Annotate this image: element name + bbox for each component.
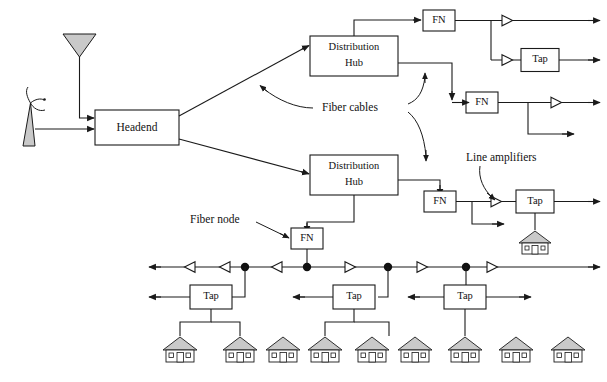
line-amplifier-icon — [185, 262, 196, 273]
distribution-hub-upper-node[interactable]: Distribution Hub — [310, 36, 398, 76]
line-amplifier-icon — [272, 262, 283, 273]
network-diagram: Headend Distribution Hub FN Tap FN — [0, 0, 607, 382]
drop-tap3-house2 — [211, 322, 240, 336]
headend-label: Headend — [117, 121, 158, 133]
line-amplifier-icon — [502, 15, 513, 26]
link-hub-lower-to-fn3 — [398, 180, 440, 190]
fiber-node-leader-arrow — [280, 234, 289, 239]
tap-node-1[interactable]: Tap — [521, 49, 559, 72]
fiber-trunk-upper-arrow — [302, 46, 309, 50]
drop-tap4-house2 — [354, 322, 389, 336]
tap2-label: Tap — [527, 195, 543, 206]
fiber-cables-leader-left — [264, 89, 313, 108]
fiber-cables-leader-up — [408, 77, 425, 104]
tap-node-3[interactable]: Tap — [190, 285, 232, 309]
coax-branch-d — [528, 103, 571, 135]
fiber-cables-leader-down — [408, 112, 426, 156]
line-amplifiers-leader — [480, 166, 492, 197]
distribution-hub-upper-label-line1: Distribution — [329, 41, 381, 52]
fiber-trunk-lower-arrow — [301, 172, 309, 174]
house-icon — [551, 337, 585, 362]
link-hub-upper-to-fn1 — [354, 20, 418, 36]
fn4-label: FN — [300, 232, 314, 243]
line-amplifier-icon — [345, 262, 356, 273]
fiber-trunk-lower — [179, 139, 306, 173]
line-amplifiers-annotation-label: Line amplifiers — [466, 151, 537, 164]
trunk-junction-dot — [303, 263, 311, 271]
house-icon — [448, 337, 482, 362]
distribution-hub-lower-label-line1: Distribution — [329, 160, 381, 171]
satellite-dish-icon — [63, 34, 96, 118]
house-icon — [308, 337, 342, 362]
tap4-label: Tap — [346, 290, 362, 301]
drop-trunk-to-tap4 — [378, 267, 388, 297]
fn2-label: FN — [475, 96, 489, 107]
drop-tap3-house1 — [180, 309, 211, 336]
distribution-hub-upper-label-line2: Hub — [345, 57, 363, 68]
tap-node-2[interactable]: Tap — [516, 190, 554, 213]
tap3-label: Tap — [203, 290, 219, 301]
house-icon — [266, 337, 300, 362]
drop-tap4-house1 — [325, 309, 354, 336]
tap5-label: Tap — [457, 290, 473, 301]
house-icon — [519, 231, 551, 254]
fiber-cables-annotation-label: Fiber cables — [322, 101, 378, 113]
fiber-node-fn1[interactable]: FN — [423, 10, 455, 31]
fiber-trunk-upper — [179, 47, 306, 116]
tap-node-4[interactable]: Tap — [333, 285, 375, 309]
house-icon — [163, 337, 197, 362]
line-amplifier-icon — [417, 262, 428, 273]
tap1-label: Tap — [532, 53, 548, 64]
distribution-hub-lower-label-line2: Hub — [345, 176, 363, 187]
headend-node[interactable]: Headend — [95, 110, 179, 145]
line-amplifier-icon — [551, 97, 562, 108]
distribution-hub-lower-node[interactable]: Distribution Hub — [310, 155, 398, 195]
link-hub-lower-to-fn4 — [307, 195, 354, 228]
drop-trunk-to-tap3 — [232, 267, 245, 297]
fiber-node-fn3[interactable]: FN — [424, 191, 456, 212]
fiber-node-fn4[interactable]: FN — [291, 228, 323, 249]
broadcast-tower-icon — [23, 87, 94, 146]
fiber-cables-leader-left-arrow — [260, 86, 268, 93]
house-icon — [499, 337, 533, 362]
tap-node-5[interactable]: Tap — [444, 285, 486, 309]
line-amplifier-icon — [487, 262, 498, 273]
house-icon — [355, 337, 389, 362]
house-icon — [223, 337, 257, 362]
fn3-label: FN — [433, 195, 447, 206]
line-amplifier-icon — [220, 262, 231, 273]
fn1-label: FN — [432, 14, 446, 25]
fiber-node-annotation-label: Fiber node — [190, 213, 240, 225]
house-icon — [398, 337, 432, 362]
fiber-node-fn2[interactable]: FN — [466, 92, 498, 113]
line-amplifier-icon — [502, 55, 513, 66]
